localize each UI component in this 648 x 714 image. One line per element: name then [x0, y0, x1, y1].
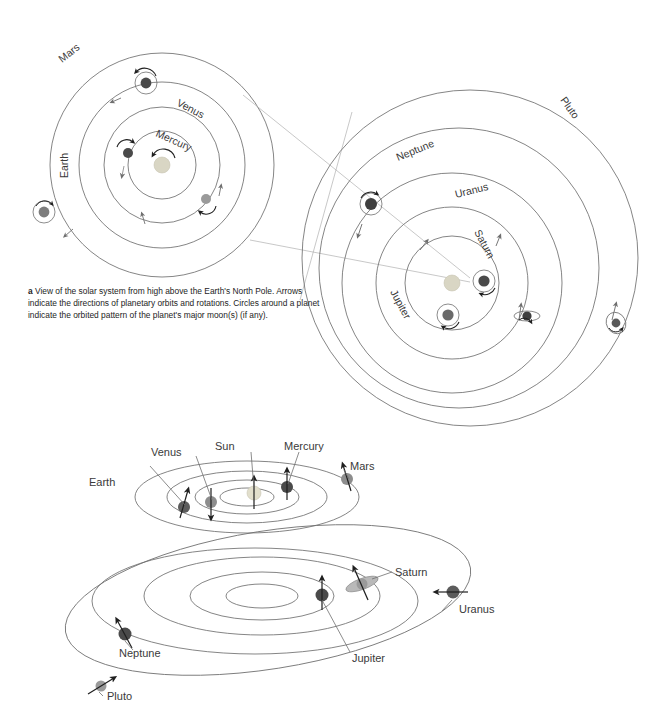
sun-disc-outer-view	[444, 275, 460, 291]
label-jupiter-persp: Jupiter	[352, 652, 385, 664]
label-uranus-persp: Uranus	[459, 603, 495, 615]
leader-saturn	[372, 572, 392, 579]
orbit-pluto-persp	[55, 500, 482, 700]
orbit-mars-persp	[135, 461, 359, 533]
orbit-jupiter-persp	[226, 584, 298, 608]
neptune-disc	[365, 198, 377, 210]
mercury-body-top-view	[117, 140, 133, 176]
magnification-guide-lines	[243, 95, 470, 300]
leader-uranus	[442, 600, 452, 611]
outer-plane-ellipses	[55, 500, 482, 700]
saturn-body-top-view	[473, 270, 495, 295]
leader-pluto	[99, 692, 103, 696]
label-venus-top: Venus	[175, 96, 206, 120]
orbit-mercury-persp	[220, 488, 274, 506]
earth-disc	[141, 78, 152, 89]
orbit-pluto	[302, 90, 638, 426]
panel-a-inner-system: Mars Venus Mercury Earth	[33, 41, 274, 277]
panel-marker: a	[28, 286, 33, 296]
sun-body-top-view	[153, 149, 175, 173]
label-mercury-persp: Mercury	[284, 440, 324, 452]
orbit-saturn-persp	[190, 572, 334, 620]
leader-mercury	[288, 452, 299, 484]
mars-disc	[39, 207, 50, 218]
orbit-earth-persp	[167, 471, 327, 523]
guide-line-diagonal	[300, 112, 352, 300]
mercury-orbit-arrow	[122, 166, 124, 176]
figure-canvas: Mars Venus Mercury Earth	[0, 0, 648, 714]
venus-disc	[201, 194, 211, 204]
venus-body-top-view	[200, 194, 216, 214]
outer-orbit-rings	[302, 90, 638, 426]
caption-text: View of the solar system from high above…	[28, 286, 319, 320]
orbit-neptune	[319, 128, 599, 408]
uranus-disc	[522, 311, 531, 320]
label-uranus-top: Uranus	[454, 180, 490, 200]
pluto-body-top-view	[602, 309, 629, 337]
sun-rotation-arrow	[153, 149, 175, 158]
panel-a-caption: a View of the solar system from high abo…	[28, 286, 328, 322]
jupiter-body-top-view	[437, 304, 459, 329]
mars-body-top-view	[33, 201, 55, 223]
mars-rotation-arrow	[36, 201, 52, 206]
guide-line-upper	[243, 95, 470, 278]
solar-system-figure: Mars Venus Mercury Earth	[0, 0, 648, 714]
label-mars-persp: Mars	[350, 460, 375, 472]
saturn-disc-persp	[357, 579, 368, 590]
inner-plane-ellipses	[135, 461, 359, 533]
sun-disc	[154, 157, 170, 173]
orbit-uranus-persp	[144, 557, 380, 635]
label-sun-persp: Sun	[215, 440, 235, 452]
earth-body-top-view	[135, 68, 157, 94]
mercury-disc	[123, 148, 133, 158]
label-neptune-persp: Neptune	[119, 647, 161, 659]
label-earth-top: Earth	[58, 153, 70, 178]
pluto-disc	[612, 319, 621, 328]
label-saturn-top: Saturn	[472, 227, 497, 260]
inner-bodies-perspective	[178, 465, 353, 518]
venus-rotation-arrow	[200, 206, 216, 214]
outer-bodies-perspective	[88, 568, 468, 694]
guide-line-lower	[250, 240, 470, 282]
orbit-neptune-persp	[92, 548, 418, 654]
label-pluto-persp: Pluto	[107, 690, 132, 702]
label-saturn-persp: Saturn	[395, 566, 427, 578]
panel-a-outer-system: Pluto Neptune Uranus Saturn Jupiter	[302, 90, 638, 426]
label-earth-persp: Earth	[89, 476, 115, 488]
label-venus-persp: Venus	[151, 446, 182, 458]
label-mars-top: Mars	[56, 41, 82, 65]
panel-b-perspective-view: Earth Venus Sun Mercury Mars Saturn Uran…	[55, 440, 495, 702]
leader-sun	[251, 452, 254, 489]
jupiter-disc	[442, 309, 453, 320]
leader-jupiter	[322, 600, 350, 652]
neptune-body-top-view	[360, 192, 382, 215]
saturn-disc	[478, 275, 489, 286]
mercury-rotation-arrow	[117, 140, 133, 147]
